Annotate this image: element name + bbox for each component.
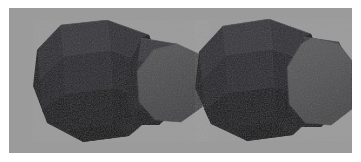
solid-left-facet-mid-a [64,50,112,94]
scene-svg [9,8,352,153]
figure-root: Two side-by-side 3D rendered faceted ste… [0,0,361,162]
render-canvas [9,8,352,153]
solid-right-front-cap [287,38,352,125]
solid-left-facet-low-a [66,88,113,130]
solid-left-facet-top-a [61,20,110,56]
solid-right-facet-mid-a [226,49,274,93]
solid-right-facet-low-a [228,87,275,129]
